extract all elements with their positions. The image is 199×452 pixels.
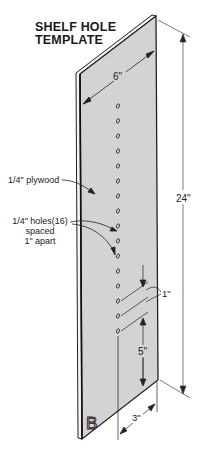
height-label: 24" bbox=[176, 193, 191, 204]
diagram-title: SHELF HOLE TEMPLATE bbox=[35, 21, 116, 47]
holes-label-line-2: spaced bbox=[9, 226, 71, 236]
board-mark: B bbox=[86, 414, 97, 433]
bottom-offset-label: 5" bbox=[138, 346, 148, 357]
spacing-label: 1" bbox=[162, 288, 171, 299]
height-dimension bbox=[158, 20, 190, 398]
holes-label-line-1: 1/4" holes(16) bbox=[9, 216, 71, 226]
edge-offset-label: 3" bbox=[132, 412, 141, 423]
holes-label: 1/4" holes(16) spaced 1" apart bbox=[9, 216, 71, 246]
width-label: 6" bbox=[113, 71, 123, 82]
plywood-label: 1/4" plywood bbox=[8, 175, 59, 185]
holes-label-line-3: 1" apart bbox=[9, 236, 71, 246]
title-line-2: TEMPLATE bbox=[35, 34, 116, 47]
